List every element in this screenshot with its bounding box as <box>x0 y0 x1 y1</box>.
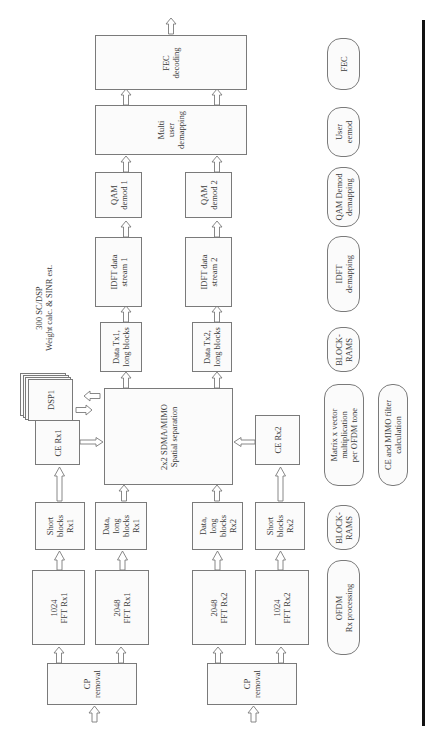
label: FFT Rx2 <box>282 592 292 623</box>
sdma-mimo-block: 2x2 SDMA/MIMOSpatial separation <box>104 388 233 485</box>
annotation-line-1: 300 SC/DSP <box>34 253 44 363</box>
data-long-blocks-rx2-block: Data,longblocksRx2 <box>192 502 243 550</box>
label: FFT Rx1 <box>59 592 69 623</box>
label: RAMS <box>344 334 354 366</box>
data-long-blocks-rx1-block: Data,longblocksRx1 <box>95 502 147 550</box>
label: CE Rx1 <box>53 429 63 456</box>
label: per OFDM tone <box>349 408 359 462</box>
legend-idft-demapping: IDFTdemapping <box>327 236 360 312</box>
label: demapping <box>176 111 186 149</box>
label: Rx processing <box>344 583 354 631</box>
label: Data Tx2, <box>202 327 212 366</box>
label: Short <box>45 515 55 537</box>
label: Rx1 <box>131 515 141 537</box>
label: Short <box>265 515 275 537</box>
label: CE Rx2 <box>273 426 283 453</box>
multi-user-demapping-block: Multiuserdemapping <box>95 105 247 155</box>
label: Data, <box>101 515 111 537</box>
data-tx1-block: Data Tx1,long blocks <box>100 322 142 372</box>
label: IDFT data <box>199 254 209 289</box>
label: 2x2 SDMA/MIMO <box>159 404 169 470</box>
label: BLOCK- <box>334 334 344 366</box>
label: 2048 <box>209 592 219 623</box>
label: long <box>111 515 121 537</box>
label: blocks <box>275 515 285 537</box>
page-edge-rule <box>422 20 425 726</box>
label: Rx2 <box>228 515 238 537</box>
label: 1024 <box>49 592 59 623</box>
legend-qam-demapping: QAM Demoddemapping <box>327 167 360 227</box>
label: CP <box>82 670 92 698</box>
label: Spatial separation <box>169 404 179 470</box>
label: IDFT data <box>109 254 119 289</box>
qam-demod-2-block: QAMdemod 2 <box>185 172 232 218</box>
cp-removal-2-block: CPremoval <box>207 663 297 705</box>
label: BLOCK- <box>334 512 344 544</box>
label: QAM Demod <box>334 174 344 221</box>
legend-block-rams-top: BLOCK-RAMS <box>327 327 360 372</box>
label: CP <box>242 670 252 698</box>
idft-stream-1-block: IDFT datastream 1 <box>95 237 142 307</box>
label: QAM <box>199 180 209 210</box>
ce-rx2-block: CE Rx2 <box>255 415 300 465</box>
qam-demod-1-block: QAMdemod 1 <box>95 172 142 218</box>
label: 2048 <box>112 592 122 623</box>
label: FFT Rx2 <box>219 592 229 623</box>
label: FEC <box>339 56 349 72</box>
label: CE and MIMO filter <box>383 400 393 470</box>
label: Data, <box>198 515 208 537</box>
legend-block-rams-bottom: BLOCK-RAMS <box>327 505 360 550</box>
fft-1024-rx1-block: 1024FFT Rx1 <box>32 570 85 645</box>
label: FEC <box>161 47 171 78</box>
label: long <box>208 515 218 537</box>
label: demod 1 <box>119 180 129 210</box>
label: blocks <box>121 515 131 537</box>
label: blocks <box>218 515 228 537</box>
fft-1024-rx2-block: 1024FFT Rx2 <box>255 570 309 645</box>
legend-matrix-vector: Matrix x vectormultiplicationper OFDM to… <box>324 384 364 486</box>
dsp1-block: DSP1 <box>28 379 73 421</box>
label: removal <box>252 670 262 698</box>
label: Data Tx1, <box>111 327 121 366</box>
fec-decoding-block: FECdecoding <box>95 35 247 90</box>
label: IDFT <box>334 255 344 293</box>
label: OFDM <box>334 583 344 631</box>
label: Multi <box>156 111 166 149</box>
label: RAMS <box>344 512 354 544</box>
label: multiplication <box>339 408 349 462</box>
label: decoding <box>171 47 181 78</box>
label: demapping <box>344 174 354 221</box>
fft-2048-rx1-block: 2048FFT Rx1 <box>95 570 149 645</box>
ce-rx1-block: CE Rx1 <box>35 420 80 465</box>
label: stream 1 <box>119 254 129 289</box>
label: calculation <box>393 400 403 470</box>
short-blocks-rx2-block: ShortblocksRx2 <box>255 502 305 550</box>
dsp-annotation: 300 SC/DSP Weight calc. & SINR est. <box>34 253 60 363</box>
label: user <box>166 111 176 149</box>
label: demod 2 <box>209 180 219 210</box>
label: DSP1 <box>46 390 56 410</box>
idft-stream-2-block: IDFT datastream 2 <box>185 237 232 307</box>
cp-removal-1-block: CPremoval <box>47 663 137 705</box>
label: QAM <box>109 180 119 210</box>
label: Rx1 <box>65 515 75 537</box>
data-tx2-block: Data Tx2,long blocks <box>192 322 232 372</box>
short-blocks-rx1-block: ShortblocksRx1 <box>35 502 85 550</box>
label: demapping <box>344 255 354 293</box>
legend-fec: FEC <box>327 38 360 90</box>
legend-ofdm-rx-processing: OFDMRx processing <box>327 560 360 655</box>
label: removal <box>92 670 102 698</box>
fft-2048-rx2-block: 2048FFT Rx2 <box>192 570 246 645</box>
legend-user-demod: Usereemod <box>327 107 360 157</box>
label: long blocks <box>212 327 222 366</box>
label: eemod <box>344 121 354 144</box>
legend-ce-mimo-filter: CE and MIMO filtercalculation <box>378 384 408 486</box>
label: Matrix x vector <box>329 408 339 462</box>
label: stream 2 <box>209 254 219 289</box>
annotation-line-2: Weight calc. & SINR est. <box>44 253 54 363</box>
label: 1024 <box>272 592 282 623</box>
label: blocks <box>55 515 65 537</box>
label: FFT Rx1 <box>122 592 132 623</box>
label: long blocks <box>121 327 131 366</box>
label: Rx2 <box>285 515 295 537</box>
